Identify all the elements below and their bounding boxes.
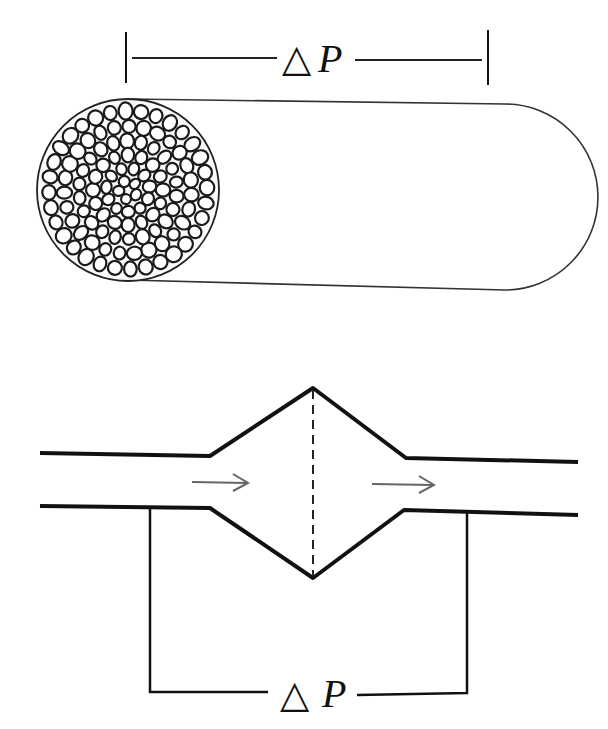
flow-arrow-left-icon bbox=[192, 474, 248, 491]
delta-symbol: △ bbox=[282, 36, 312, 80]
diagram-canvas: △ P △ P bbox=[0, 0, 608, 729]
top-pressure-label: △ P bbox=[282, 36, 342, 81]
pipe-with-chamber bbox=[40, 388, 578, 578]
pressure-symbol: P bbox=[317, 36, 342, 81]
delta-symbol: △ bbox=[280, 672, 310, 716]
bottom-pressure-dimension bbox=[150, 508, 467, 695]
bottom-pressure-label: △ P bbox=[280, 671, 346, 716]
flow-arrow-right-icon bbox=[372, 476, 434, 493]
pressure-symbol: P bbox=[321, 671, 346, 716]
packed-column bbox=[37, 99, 598, 290]
